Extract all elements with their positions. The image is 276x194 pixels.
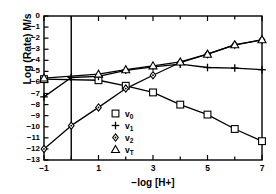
- y-tick-label: −4: [18, 55, 40, 64]
- x-tick-label: −1: [35, 163, 53, 173]
- legend-label: v0: [125, 109, 133, 119]
- x-tick-label: 7: [253, 163, 271, 173]
- chart-figure: Log (Rate) M/s −log [H+] 0−1−2−3−4−5−6−7…: [0, 0, 276, 194]
- x-tick-label: 1: [90, 163, 108, 173]
- legend-square-icon: [108, 108, 122, 119]
- axes-frame: [44, 16, 262, 160]
- x-axis-label: −log [H+]: [44, 177, 262, 188]
- y-tick-label: −7: [18, 89, 40, 98]
- legend-item: v1: [108, 120, 134, 131]
- y-tick-label: −1: [18, 22, 40, 31]
- legend-label: vT: [125, 145, 134, 155]
- chart-legend: v0v1v2vT: [108, 108, 134, 155]
- legend-triangle-icon: [108, 144, 122, 155]
- y-tick-label: −9: [18, 111, 40, 120]
- axis-ticks: [44, 16, 262, 160]
- legend-label: v1: [125, 121, 133, 131]
- legend-item: v0: [108, 108, 134, 119]
- legend-diamond-icon: [108, 132, 122, 143]
- y-tick-label: −8: [18, 100, 40, 109]
- y-tick-label: −3: [18, 44, 40, 53]
- y-tick-label: −10: [18, 122, 40, 131]
- data-series: [40, 36, 266, 153]
- legend-item: v2: [108, 132, 134, 143]
- y-tick-label: −5: [18, 66, 40, 75]
- legend-plus-icon: [108, 120, 122, 131]
- y-tick-label: −11: [18, 133, 40, 142]
- legend-item: vT: [108, 144, 134, 155]
- y-tick-label: −6: [18, 77, 40, 86]
- y-tick-label: −2: [18, 33, 40, 42]
- x-tick-label: 5: [199, 163, 217, 173]
- y-tick-label: 0: [18, 11, 40, 20]
- x-tick-label: 3: [144, 163, 162, 173]
- y-tick-label: −12: [18, 144, 40, 153]
- legend-label: v2: [125, 133, 133, 143]
